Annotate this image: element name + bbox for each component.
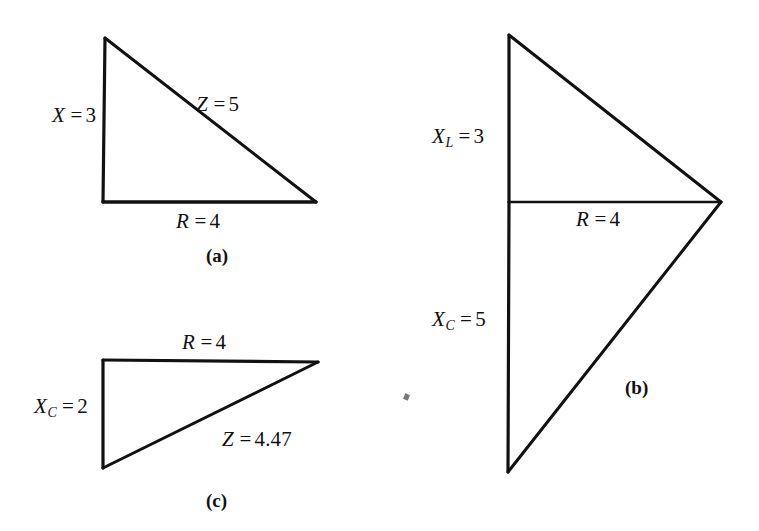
panel-b-inductive-equals: =	[454, 124, 474, 148]
panel-a-reactance-side	[103, 38, 105, 202]
panel-c-capacitive-symbol: X	[34, 394, 47, 418]
panel-c-impedance-symbol: Z	[222, 427, 234, 451]
panel-c-impedance-value: 4.47	[254, 427, 292, 451]
panel-a-reactance-equals: =	[66, 103, 86, 127]
impedance-triangles-figure: X=3 Z=5 R=4 (a) XL=3 R=4 XC=5 (b) R=4 XC…	[0, 0, 759, 531]
panel-b-inductive-subscript: L	[445, 135, 454, 150]
panel-b-capacitive-equals: =	[455, 307, 475, 331]
panel-b-capacitive-symbol: X	[432, 307, 445, 331]
panel-a-label-resistance: R=4	[176, 211, 220, 235]
panel-c-label-capacitive-reactance: XC=2	[34, 396, 88, 420]
panel-c-capacitive-subscript: C	[47, 405, 57, 420]
figure-line-art	[0, 0, 759, 531]
panel-a-impedance-value: 5	[228, 92, 239, 116]
panel-b-inductive-value: 3	[474, 124, 485, 148]
panel-b-caption: (b)	[625, 378, 648, 397]
panel-a-resistance-symbol: R	[176, 209, 189, 233]
panel-a-label-reactance: X=3	[52, 105, 96, 129]
panel-c-resistance-equals: =	[196, 330, 216, 354]
panel-b-resistance-symbol: R	[576, 207, 589, 231]
panel-b-capacitive-subscript: C	[445, 318, 455, 333]
panel-a-label-impedance: Z=5	[196, 94, 239, 118]
panel-c-capacitive-equals: =	[57, 394, 77, 418]
panel-c-capacitive-value: 2	[77, 394, 88, 418]
panel-a-impedance-equals: =	[208, 92, 228, 116]
panel-a-impedance-symbol: Z	[196, 92, 208, 116]
panel-b-label-inductive-reactance: XL=3	[432, 126, 484, 150]
panel-c-resistance-symbol: R	[182, 330, 195, 354]
panel-b-label-capacitive-reactance: XC=5	[432, 309, 486, 333]
panel-a-resistance-equals: =	[190, 209, 210, 233]
panel-c-impedance-equals: =	[234, 427, 254, 451]
panel-b-triangle	[508, 35, 721, 472]
panel-b-capacitive-side	[508, 202, 509, 472]
panel-a-caption: (a)	[206, 246, 228, 265]
panel-b-lower-hypotenuse	[508, 202, 721, 472]
panel-b-upper-hypotenuse	[509, 35, 721, 202]
panel-a-resistance-value: 4	[210, 209, 221, 233]
panel-b-resistance-equals: =	[590, 207, 610, 231]
panel-b-inductive-symbol: X	[432, 124, 445, 148]
panel-c-label-resistance: R=4	[182, 332, 226, 356]
panel-c-label-impedance: Z=4.47	[222, 429, 292, 453]
panel-b-label-resistance: R=4	[576, 209, 620, 233]
panel-c-resistance-side	[103, 360, 318, 362]
panel-a-impedance-side	[105, 38, 316, 202]
panel-b-capacitive-value: 5	[475, 307, 486, 331]
panel-c-caption: (c)	[206, 491, 227, 510]
panel-b-resistance-value: 4	[610, 207, 621, 231]
panel-a-reactance-symbol: X	[52, 103, 65, 127]
panel-c-resistance-value: 4	[216, 330, 227, 354]
panel-a-reactance-value: 3	[86, 103, 97, 127]
panel-a-triangle	[103, 38, 316, 202]
